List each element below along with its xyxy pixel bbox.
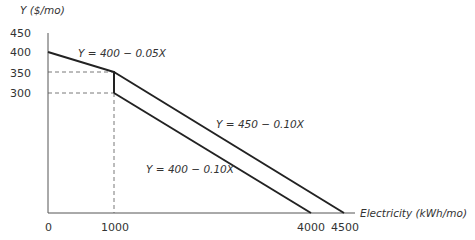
x-tick-1000: 1000: [101, 221, 129, 234]
annotation-400-010x: Y = 400 − 0.10X: [146, 163, 235, 175]
line-400-010x: [114, 93, 311, 213]
y-tick-400: 400: [10, 46, 31, 59]
annotation-450-010x: Y = 450 − 0.10X: [216, 118, 305, 130]
y-tick-350: 350: [10, 67, 31, 80]
x-tick-4000: 4000: [297, 221, 325, 234]
y-tick-450: 450: [10, 27, 31, 40]
x-tick-4500: 4500: [331, 221, 359, 234]
y-tick-300: 300: [10, 87, 31, 100]
x-axis-label: Electricity (kWh/mo): [360, 207, 467, 219]
y-axis-label: Y ($/mo): [20, 4, 65, 16]
x-tick-0: 0: [45, 221, 52, 234]
line-450-010x: [114, 72, 344, 213]
annotation-400-005x: Y = 400 − 0.05X: [78, 47, 167, 59]
budget-constraint-chart: Y ($/mo) Electricity (kWh/mo) 450 400 35…: [0, 0, 475, 240]
